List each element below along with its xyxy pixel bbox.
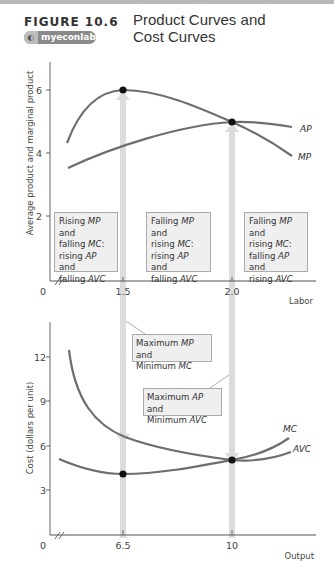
annotation-falling-mp-rising-ap: Falling MP and rising MC: rising AP and …: [146, 212, 211, 272]
y-tick-12: 12: [34, 352, 46, 363]
x-tick-10: 10: [226, 540, 238, 551]
y-axis-label: Cost (dollars per unit): [25, 382, 35, 475]
x-tick-0: 0: [40, 540, 46, 551]
y-tick-4: 4: [36, 148, 42, 159]
y-tick-9: 9: [40, 396, 46, 407]
x-tick-2-0: 2.0: [224, 286, 239, 297]
max-mp-point: [119, 86, 126, 93]
product-chart: 6 4 2 0 1.5 2.0 Labor Average product an…: [25, 62, 316, 538]
annotation-max-mp-min-mc: Maximum MP and Minimum MC: [132, 334, 212, 362]
ap-curve: [68, 122, 292, 168]
x-tick-0: 0: [40, 286, 46, 297]
y-axis-label: Average product and marginal product: [25, 70, 35, 235]
y-tick-2: 2: [36, 211, 42, 222]
x-axis-label: Output: [284, 551, 314, 561]
min-mc-point: [119, 470, 126, 477]
max-ap-point: [228, 118, 235, 125]
min-avc-point: [228, 456, 235, 463]
annotation-rising-mp: Rising MP and falling MC: rising AP and …: [54, 212, 118, 272]
ap-label: AP: [299, 124, 312, 134]
y-tick-3: 3: [40, 485, 46, 496]
y-tick-6: 6: [36, 85, 42, 96]
guide-arrows: [116, 91, 239, 538]
x-tick-1-5: 1.5: [115, 286, 130, 297]
x-axis-label: Labor: [289, 296, 314, 306]
annotation-falling-mp-falling-ap: Falling MP and rising MC: falling AP and…: [244, 212, 308, 272]
mp-label: MP: [298, 152, 312, 162]
leader-line-max-ap: [210, 375, 229, 388]
mc-label: MC: [283, 424, 298, 434]
charts: 6 4 2 0 1.5 2.0 Labor Average product an…: [0, 0, 334, 586]
annotation-max-ap-min-avc: Maximum AP and Minimum AVC: [143, 388, 222, 416]
mc-curve: [59, 438, 289, 474]
avc-label: AVC: [292, 444, 312, 454]
y-tick-6: 6: [40, 441, 46, 452]
x-tick-6-5: 6.5: [115, 540, 130, 551]
